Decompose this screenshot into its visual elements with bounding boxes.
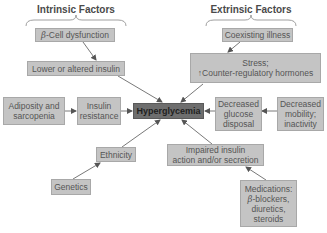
node-label: Coexisting illness	[225, 30, 291, 40]
node-label-line2: Counter-regulatory hormones	[202, 68, 313, 78]
node-label-line1: Insulin	[87, 101, 112, 111]
node-genetics: Genetics	[51, 179, 91, 195]
node-coexisting-illness: Coexisting illness	[222, 28, 293, 42]
node-label-line1: Decreased	[280, 99, 321, 109]
node-beta-cell-dysfunction: β-Cell dysfunction	[35, 28, 115, 42]
extrinsic-factors-title: Extrinsic Factors	[206, 4, 296, 15]
node-impaired-insulin: Impaired insulin action and/or secretion	[167, 144, 264, 166]
node-label-line2: mobility;	[285, 109, 316, 119]
node-stress: Stress; ↑Counter-regulatory hormones	[190, 53, 321, 83]
node-label-line3: diuretics,	[251, 204, 285, 214]
intrinsic-factors-title: Intrinsic Factors	[26, 4, 126, 15]
node-label: Ethnicity	[100, 150, 132, 160]
edge-medications-to-impaired	[246, 167, 266, 180]
node-decreased-glucose-disposal: Decreased glucose disposal	[215, 97, 262, 131]
edge-genetics-to-ethnicity	[73, 163, 100, 179]
node-label-line2: sarcopenia	[13, 111, 55, 121]
node-label-line1: Stress;	[242, 58, 268, 68]
node-insulin-resistance: Insulin resistance	[77, 97, 121, 125]
node-label-line2: glucose	[224, 109, 253, 119]
node-medications: Medications: β-blockers, diuretics, ster…	[240, 180, 297, 227]
node-label-line2: -blockers,	[253, 194, 290, 204]
node-lower-altered-insulin: Lower or altered insulin	[27, 61, 125, 76]
node-label-line1: Adiposity and	[8, 101, 59, 111]
node-label: Genetics	[54, 182, 88, 192]
node-decreased-mobility: Decreased mobility; inactivity	[277, 97, 324, 131]
node-label-line3: disposal	[223, 119, 254, 129]
node-label-line3: inactivity	[284, 119, 317, 129]
edge-impaired-to-hyper	[182, 120, 212, 144]
node-label-line2-wrap: ↑Counter-regulatory hormones	[198, 68, 313, 78]
node-label-line1: Medications:	[245, 184, 293, 194]
node-label-line1: Impaired insulin	[186, 145, 246, 155]
node-hyperglycemia: Hyperglycemia	[133, 103, 204, 119]
node-ethnicity: Ethnicity	[96, 147, 136, 162]
node-label-line2-wrap: β-blockers,	[248, 194, 290, 204]
edge-beta-to-lower	[83, 42, 96, 60]
edge-stress-to-hyper	[181, 84, 203, 102]
intrinsic-brace	[26, 15, 126, 26]
edge-coexisting-to-stress	[228, 42, 240, 52]
node-label-line4: steroids	[254, 214, 284, 224]
node-label-line2: action and/or secretion	[173, 155, 259, 165]
node-label: Lower or altered insulin	[32, 64, 120, 74]
node-label-line2: resistance	[80, 111, 119, 121]
node-label-line1: Decreased	[218, 99, 259, 109]
node-adiposity-sarcopenia: Adiposity and sarcopenia	[3, 97, 65, 125]
edge-lower-to-hyper	[118, 76, 162, 102]
node-label: Hyperglycemia	[136, 106, 200, 116]
extrinsic-brace	[206, 15, 296, 26]
edge-ethnicity-to-hyper	[122, 120, 160, 147]
node-label: -Cell dysfunction	[46, 30, 109, 40]
